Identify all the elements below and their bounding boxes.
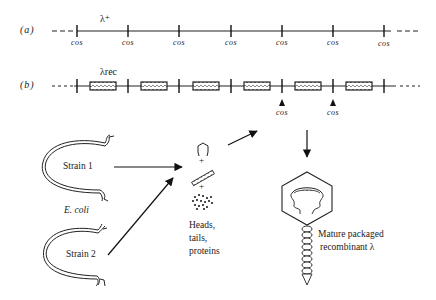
cos-label: cos [276, 108, 288, 117]
cos-label: cos [173, 38, 185, 47]
arrow-components-to-dna [228, 131, 257, 145]
plus-sign: + [199, 155, 204, 165]
row-a-dna-line [52, 25, 420, 37]
proteins-dots-icon [192, 194, 213, 210]
arrow-strain2-to-components [108, 178, 173, 255]
row-a-label: (a) [20, 24, 35, 35]
row-b-dna-line [52, 79, 420, 106]
components-caption-line: tails, [189, 232, 207, 245]
row-b-label: (b) [20, 79, 35, 90]
row-b-title: λrec [100, 66, 117, 77]
hexagon-head-icon [198, 143, 208, 152]
components-caption-line: Heads, [189, 219, 215, 232]
row-a-title: λ⁺ [100, 13, 110, 24]
product-caption-line: Mature packaged [318, 228, 384, 241]
cos-site-pointer-icons [279, 99, 336, 106]
cos-label: cos [327, 108, 339, 117]
strain-2-label: Strain 2 [66, 248, 96, 261]
plus-sign: + [199, 181, 204, 191]
host-label: E. coli [64, 204, 89, 217]
components-caption-line: proteins [189, 245, 220, 258]
strain-1-label: Strain 1 [63, 160, 93, 173]
cos-label: cos [71, 38, 83, 47]
cos-label: cos [378, 39, 390, 48]
cos-label: cos [327, 38, 339, 47]
cos-label: cos [276, 38, 288, 47]
cos-label: cos [225, 38, 237, 47]
product-caption-line: recombinant λ [320, 241, 374, 254]
cos-label: cos [122, 38, 134, 47]
